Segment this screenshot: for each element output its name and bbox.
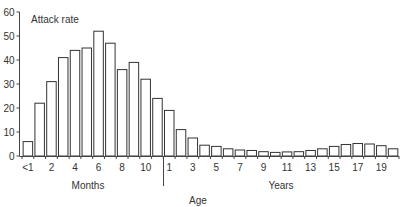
- y-axis: 0102030405060: [3, 7, 19, 162]
- bar: [247, 150, 257, 156]
- x-tick-label: 19: [376, 162, 388, 173]
- bar: [212, 146, 222, 156]
- bar: [35, 103, 45, 156]
- bar: [223, 149, 233, 156]
- bar: [94, 31, 104, 156]
- bar: [129, 62, 139, 156]
- bar: [365, 144, 375, 156]
- bar: [329, 146, 339, 156]
- y-tick-label: 50: [3, 31, 15, 42]
- bar: [271, 152, 281, 156]
- x-tick-label: 1: [166, 162, 172, 173]
- x-tick-label: 11: [282, 162, 293, 173]
- bar: [47, 82, 57, 156]
- bar: [200, 145, 210, 156]
- bar: [117, 70, 127, 156]
- y-tick-label: 30: [3, 79, 15, 90]
- bar: [306, 150, 316, 156]
- group-label-months: Months: [72, 180, 105, 191]
- bar: [188, 138, 198, 156]
- bar: [141, 79, 151, 156]
- x-tick-label: 9: [261, 162, 267, 173]
- bar: [235, 150, 245, 156]
- x-tick-label: 2: [49, 162, 55, 173]
- bar: [58, 58, 67, 156]
- bar: [318, 149, 328, 156]
- bar: [176, 130, 186, 156]
- x-tick-label: 13: [305, 162, 317, 173]
- y-tick-label: 0: [9, 151, 15, 162]
- y-axis-title: Attack rate: [31, 14, 79, 25]
- x-axis-title: Age: [189, 195, 207, 206]
- x-axis: <1246810135791113151719: [20, 156, 399, 173]
- y-tick-label: 20: [3, 103, 15, 114]
- y-tick-label: 40: [3, 55, 15, 66]
- bar: [282, 152, 292, 156]
- x-tick-label: 3: [190, 162, 196, 173]
- x-tick-label: 6: [96, 162, 102, 173]
- bar: [353, 144, 363, 156]
- bar: [377, 146, 387, 156]
- bar: [23, 142, 33, 156]
- bars: [23, 31, 398, 156]
- bar: [294, 152, 304, 156]
- bar: [259, 152, 269, 156]
- x-tick-label: 7: [237, 162, 243, 173]
- x-tick-label: 10: [140, 162, 152, 173]
- x-tick-label: 4: [72, 162, 78, 173]
- x-tick-label: <1: [22, 162, 34, 173]
- bar: [106, 43, 116, 156]
- attack-rate-bar-chart: 0102030405060 <1246810135791113151719 At…: [0, 0, 406, 207]
- bar: [341, 144, 351, 156]
- group-label-years: Years: [268, 180, 293, 191]
- y-tick-label: 60: [3, 7, 15, 18]
- bar: [388, 149, 398, 156]
- bar: [70, 50, 80, 156]
- x-tick-label: 15: [329, 162, 341, 173]
- bar: [153, 98, 163, 156]
- x-tick-label: 8: [119, 162, 125, 173]
- x-tick-label: 5: [214, 162, 220, 173]
- bar: [165, 110, 175, 156]
- y-tick-label: 10: [3, 127, 15, 138]
- bar: [82, 48, 92, 156]
- x-tick-label: 17: [352, 162, 364, 173]
